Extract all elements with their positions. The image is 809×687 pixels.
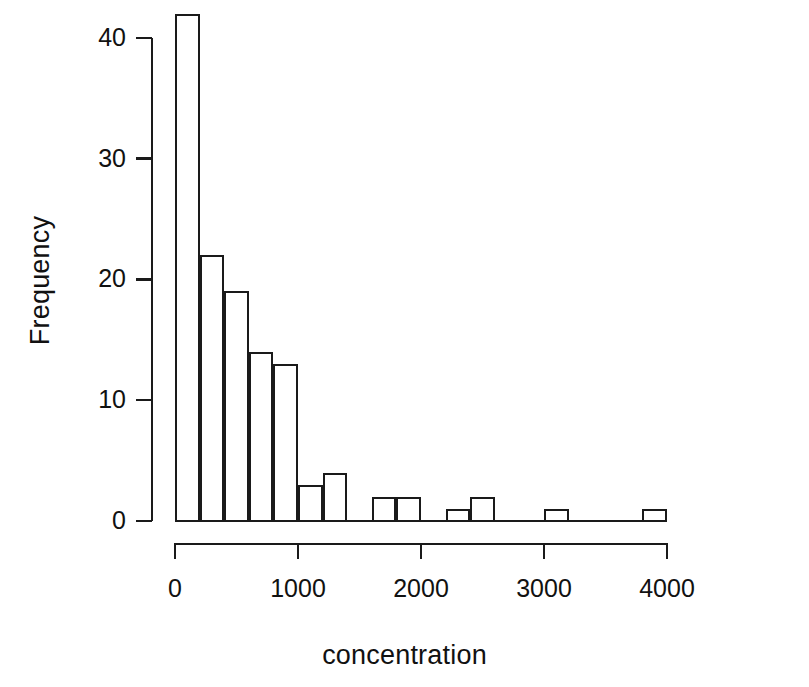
- y-tick-0: [136, 520, 152, 522]
- y-tick-label-40: 40: [70, 23, 126, 52]
- x-axis-label: concentration: [0, 640, 809, 671]
- x-tick-label-3000: 3000: [484, 574, 604, 603]
- histogram-bar: [298, 485, 323, 521]
- x-tick-label-4000: 4000: [607, 574, 727, 603]
- histogram-bar: [200, 255, 225, 521]
- histogram-bar: [470, 497, 495, 521]
- y-tick-40: [136, 37, 152, 39]
- x-tick-0: [174, 543, 176, 559]
- histogram-baseline: [175, 520, 667, 522]
- y-axis-label: Frequency: [25, 201, 56, 361]
- y-tick-10: [136, 399, 152, 401]
- y-tick-30: [136, 157, 152, 159]
- y-tick-label-30: 30: [70, 144, 126, 173]
- x-tick-3000: [543, 543, 545, 559]
- histogram-plot: 010203040 01000200030004000 Frequency co…: [0, 0, 809, 687]
- histogram-bar: [323, 473, 348, 521]
- y-tick-20: [136, 278, 152, 280]
- x-tick-label-0: 0: [115, 574, 235, 603]
- x-tick-2000: [420, 543, 422, 559]
- y-tick-label-0: 0: [70, 506, 126, 535]
- histogram-bar: [396, 497, 421, 521]
- histogram-bar: [224, 291, 249, 521]
- histogram-bar: [372, 497, 397, 521]
- histogram-bar: [175, 14, 200, 521]
- x-tick-4000: [666, 543, 668, 559]
- x-tick-1000: [297, 543, 299, 559]
- histogram-bar: [273, 364, 298, 521]
- y-tick-label-10: 10: [70, 385, 126, 414]
- histogram-bar: [249, 352, 274, 521]
- x-tick-label-1000: 1000: [238, 574, 358, 603]
- x-tick-label-2000: 2000: [361, 574, 481, 603]
- y-tick-label-20: 20: [70, 264, 126, 293]
